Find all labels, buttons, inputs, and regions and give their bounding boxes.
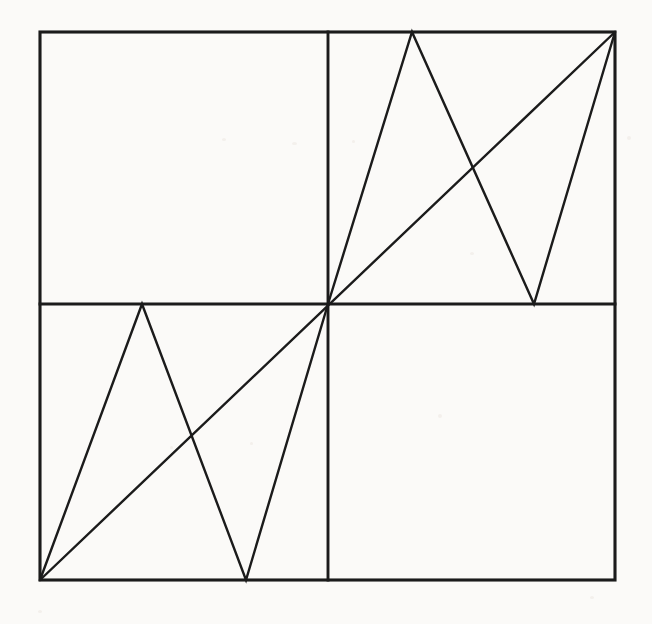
geometric-figure-svg xyxy=(0,0,652,624)
figure-canvas xyxy=(0,0,652,624)
